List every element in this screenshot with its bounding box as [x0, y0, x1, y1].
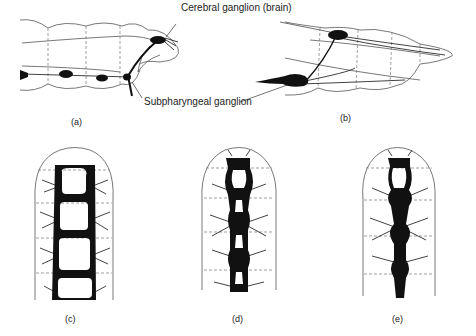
caption-c: (c) [65, 314, 76, 324]
nervous-system-diagram: .o { fill:none; stroke:#555; stroke-widt… [0, 0, 476, 336]
figure-a-side-view [20, 20, 179, 98]
cerebral-ganglion-label: Cerebral ganglion (brain) [181, 2, 292, 13]
figure-c-ladder-cord [35, 148, 113, 301]
subpharyngeal-ganglion-label: Subpharyngeal ganglion [144, 96, 252, 107]
caption-d: (d) [232, 314, 243, 324]
figure-e-fused-cord [363, 148, 435, 299]
caption-b: (b) [340, 113, 351, 123]
figure-b-side-view [240, 22, 452, 102]
figure-d-partially-fused-cord [202, 148, 276, 293]
caption-a: (a) [71, 117, 82, 127]
caption-e: (e) [392, 314, 403, 324]
